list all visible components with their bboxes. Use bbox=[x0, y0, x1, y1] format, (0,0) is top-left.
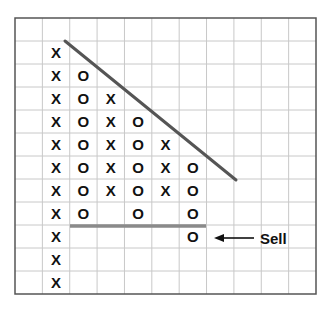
x-box: X bbox=[51, 274, 61, 291]
x-box: X bbox=[160, 182, 170, 199]
x-box: X bbox=[51, 90, 61, 107]
x-box: X bbox=[106, 159, 116, 176]
o-box: O bbox=[187, 182, 199, 199]
x-box: X bbox=[106, 113, 116, 130]
x-box: X bbox=[160, 136, 170, 153]
x-box: X bbox=[51, 182, 61, 199]
o-box: O bbox=[187, 159, 199, 176]
x-box: X bbox=[51, 228, 61, 245]
x-box: X bbox=[51, 136, 61, 153]
o-box: O bbox=[78, 205, 90, 222]
point-and-figure-chart: XXXXXXXXXXXOOOOOOOXXXXXOOOOOXXXOOOO Sell bbox=[0, 0, 330, 309]
o-box: O bbox=[78, 113, 90, 130]
x-box: X bbox=[106, 136, 116, 153]
o-box: O bbox=[78, 159, 90, 176]
o-box: O bbox=[132, 182, 144, 199]
arrow-left-icon bbox=[214, 234, 224, 242]
x-box: X bbox=[51, 205, 61, 222]
chart-symbols: XXXXXXXXXXXOOOOOOOXXXXXOOOOOXXXOOOO bbox=[51, 44, 199, 291]
o-box: O bbox=[78, 90, 90, 107]
x-box: X bbox=[106, 182, 116, 199]
o-box: O bbox=[132, 136, 144, 153]
o-box: O bbox=[78, 136, 90, 153]
x-box: X bbox=[106, 90, 116, 107]
o-box: O bbox=[78, 67, 90, 84]
sell-label: Sell bbox=[260, 230, 287, 247]
o-box: O bbox=[132, 159, 144, 176]
x-box: X bbox=[51, 159, 61, 176]
x-box: X bbox=[51, 67, 61, 84]
x-box: X bbox=[51, 113, 61, 130]
o-box: O bbox=[132, 205, 144, 222]
o-box: O bbox=[78, 182, 90, 199]
o-box: O bbox=[187, 205, 199, 222]
x-box: X bbox=[160, 159, 170, 176]
x-box: X bbox=[51, 251, 61, 268]
o-box: O bbox=[187, 228, 199, 245]
o-box: O bbox=[132, 113, 144, 130]
sell-annotation: Sell bbox=[214, 230, 287, 247]
x-box: X bbox=[51, 44, 61, 61]
